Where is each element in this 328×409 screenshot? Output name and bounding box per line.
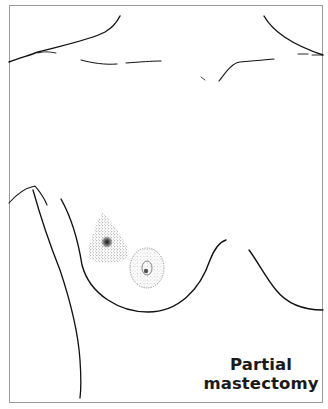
excised-tissue-region [88,212,129,263]
left-shoulder-line [9,16,120,62]
figure-caption: Partial mastectomy [200,355,322,393]
sternal-notch [201,77,205,80]
caption-line-2: mastectomy [200,374,322,393]
right-shoulder-line [264,16,323,55]
right-clavicle [219,59,274,81]
caption-line-1: Partial [200,355,322,374]
arm-outline [9,186,47,205]
right-breast-outline [249,250,323,310]
torso-illustration [0,0,328,409]
arm-inner-line [33,190,81,398]
areola [130,248,164,288]
left-clavicle [81,60,117,64]
